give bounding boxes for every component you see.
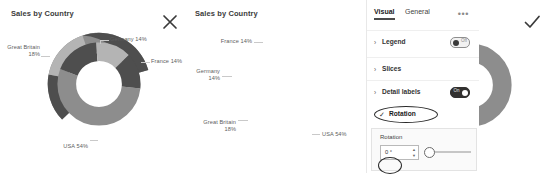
rotation-control-card: Rotation 0 ° ▲ ▼ [371, 128, 477, 171]
chart-panel-after: Sales by Country France 14% Germany 14% … [186, 0, 364, 173]
leader-great-britain-after [238, 120, 248, 121]
leader-usa [90, 140, 98, 141]
annotation-oval-rotation [374, 106, 438, 123]
legend-toggle[interactable]: Off [450, 37, 470, 48]
stepper-up-icon[interactable]: ▲ [412, 147, 416, 152]
leader-france-after [254, 42, 263, 43]
label-great-britain-line2: 18% [0, 51, 40, 58]
page-title-after: Sales by Country [195, 9, 258, 18]
close-icon[interactable] [160, 12, 180, 32]
setting-row-legend[interactable]: › Legend Off [367, 30, 479, 54]
rotation-stepper[interactable]: ▲ ▼ [410, 145, 419, 160]
setting-label-legend: Legend [382, 38, 405, 45]
legend-toggle-knob [453, 40, 459, 46]
setting-label-slices: Slices [382, 65, 401, 72]
check-icon[interactable] [522, 12, 542, 32]
label-france-after: France 14% [200, 38, 252, 45]
label-france: France 14% [151, 58, 182, 65]
tab-visual[interactable]: Visual [374, 8, 395, 20]
format-pane: Visual General ••• › Legend Off › Slices… [366, 0, 479, 173]
leader-germany-stem [100, 40, 101, 44]
leader-france [141, 62, 150, 63]
setting-row-slices[interactable]: › Slices [367, 57, 479, 81]
format-pane-tabs: Visual General ••• [367, 8, 479, 26]
page-title: Sales by Country [11, 9, 74, 18]
chevron-right-icon[interactable]: › [374, 66, 376, 73]
donut-chart-before[interactable] [47, 32, 151, 136]
rotation-slider-track[interactable] [433, 151, 471, 153]
chevron-right-icon[interactable]: › [374, 89, 376, 96]
setting-row-detail-labels[interactable]: › Detail labels On [367, 80, 479, 104]
label-usa-after: USA 54% [322, 131, 347, 138]
leader-usa-after [312, 134, 320, 135]
label-germany: Germany 14% [110, 36, 147, 43]
annotation-oval-rotation-value [378, 157, 402, 174]
leader-great-britain [41, 56, 50, 57]
setting-row-rotation[interactable]: ✓ Rotation [367, 104, 479, 124]
label-great-britain-line1: Great Britain [0, 44, 40, 51]
tab-general[interactable]: General [405, 8, 430, 18]
detail-labels-toggle-state: On [454, 88, 460, 93]
label-great-britain-after-line2: 18% [188, 126, 236, 133]
detail-labels-toggle[interactable]: On [450, 87, 470, 98]
rotation-value: 0 ° [385, 149, 392, 155]
more-options-icon[interactable]: ••• [458, 9, 469, 19]
rotation-field-label: Rotation [380, 134, 402, 140]
label-germany-after-line2: 14% [186, 75, 220, 82]
leader-germany [100, 40, 109, 41]
setting-label-detail-labels: Detail labels [382, 88, 420, 95]
stepper-down-icon[interactable]: ▼ [412, 153, 416, 158]
label-usa: USA 54% [40, 143, 88, 150]
detail-labels-toggle-knob [462, 90, 468, 96]
label-great-britain-after-line1: Great Britain [188, 119, 236, 126]
legend-toggle-state: Off [461, 38, 467, 43]
leader-germany-after [222, 76, 232, 77]
label-germany-after-line1: Germany [186, 68, 220, 75]
rotation-slider-thumb[interactable] [424, 147, 435, 158]
chevron-right-icon[interactable]: › [374, 39, 376, 46]
chart-panel-before: Sales by Country Germany 14% France 14% [0, 0, 182, 173]
